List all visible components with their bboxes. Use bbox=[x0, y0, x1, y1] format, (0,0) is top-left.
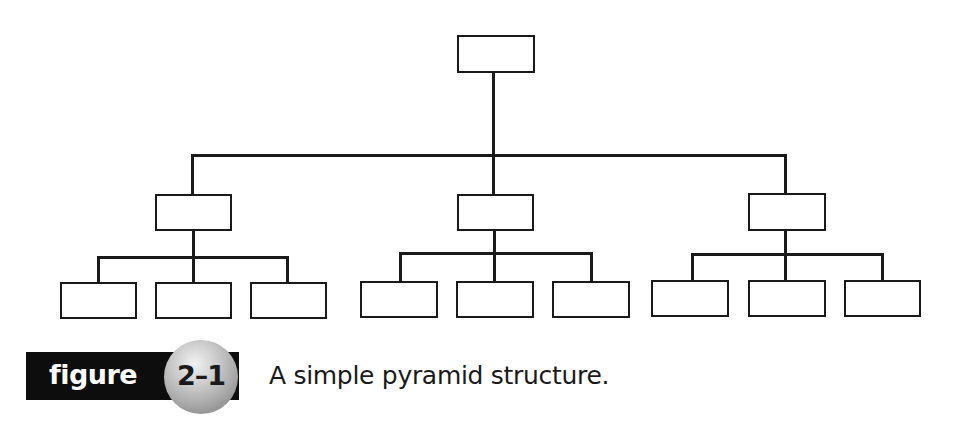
connector-mid-center-down bbox=[493, 230, 496, 282]
connector-left-bus bbox=[97, 256, 289, 259]
figure-label-word: figure bbox=[49, 353, 137, 399]
figure-caption: A simple pyramid structure. bbox=[269, 356, 609, 396]
connector-to-leaf-6 bbox=[590, 252, 593, 282]
connector-right-bus bbox=[691, 253, 884, 256]
connector-to-mid-left bbox=[191, 154, 194, 195]
node-leaf-2 bbox=[155, 282, 232, 319]
connector-level1-bus bbox=[191, 154, 787, 157]
node-mid-right bbox=[748, 193, 826, 231]
connector-to-mid-right bbox=[784, 154, 787, 194]
node-leaf-4 bbox=[360, 281, 438, 318]
node-mid-left bbox=[155, 194, 232, 231]
node-leaf-6 bbox=[552, 281, 630, 318]
node-leaf-1 bbox=[60, 282, 137, 319]
node-leaf-8 bbox=[748, 280, 826, 317]
connector-to-mid-center bbox=[492, 154, 495, 195]
node-leaf-3 bbox=[250, 282, 327, 319]
connector-to-leaf-7 bbox=[691, 253, 694, 281]
connector-to-leaf-4 bbox=[399, 252, 402, 282]
node-leaf-7 bbox=[651, 280, 729, 317]
connector-to-leaf-9 bbox=[881, 253, 884, 281]
figure-number: 2–1 bbox=[164, 340, 238, 414]
connector-to-leaf-1 bbox=[97, 256, 100, 283]
connector-mid-right-down bbox=[784, 230, 787, 281]
node-leaf-9 bbox=[844, 280, 921, 317]
node-mid-center bbox=[457, 194, 534, 231]
node-leaf-5 bbox=[456, 281, 534, 318]
connector-root-down bbox=[492, 72, 495, 156]
connector-to-leaf-3 bbox=[286, 256, 289, 283]
connector-center-bus bbox=[399, 252, 593, 255]
node-root bbox=[457, 35, 535, 73]
